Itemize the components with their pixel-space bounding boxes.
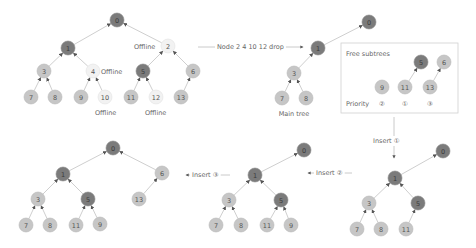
priority-label: Priority	[346, 100, 369, 108]
tree-node-13: 13	[174, 90, 188, 104]
tree-node-6: 6	[437, 55, 451, 69]
node-label: 13	[135, 196, 143, 204]
node-label: 4	[91, 68, 95, 76]
tree-node-11: 11	[399, 222, 413, 236]
tree-node-9: 9	[93, 217, 107, 231]
transition-label: Node 2 4 10 12 drop	[217, 43, 284, 51]
tree-edge	[284, 207, 289, 219]
node-label: 6	[442, 59, 446, 67]
tree-edge	[34, 78, 41, 91]
node-label: 13	[177, 94, 185, 102]
tree-edge	[232, 207, 238, 219]
node-label: 0	[441, 148, 445, 156]
node-label: 3	[227, 197, 231, 205]
node-label: 9	[380, 84, 384, 92]
node-label: 0	[111, 145, 115, 153]
transition-label: Insert ③	[192, 171, 219, 179]
tree-edge	[91, 206, 97, 218]
node-label: 1	[61, 171, 65, 179]
tree-node-3: 3	[37, 64, 51, 78]
tree-node-1: 1	[388, 171, 402, 185]
node-label: 7	[24, 222, 28, 230]
tree-node-0: 0	[297, 143, 311, 157]
tree-edge	[124, 23, 162, 42]
node-label: 7	[355, 226, 359, 234]
tree-edge	[74, 24, 110, 45]
node-label: 3	[36, 196, 40, 204]
node-label: 12	[152, 94, 160, 102]
tree-node-7: 7	[19, 218, 33, 232]
tree-node-11: 11	[398, 80, 412, 94]
tree-node-5: 5	[81, 192, 95, 206]
tree-edge	[96, 78, 102, 91]
tree-node-8: 8	[43, 218, 57, 232]
tree-edge	[148, 51, 163, 66]
tree-edge	[74, 53, 88, 66]
tree-node-13: 13	[423, 80, 437, 94]
node-label: 11	[72, 222, 80, 230]
tree-node-0: 0	[436, 144, 450, 158]
tree-edge	[409, 210, 415, 223]
node-label: 3	[367, 200, 371, 208]
tree-node-6: 6	[155, 166, 169, 180]
tree-edge	[234, 180, 250, 195]
tree-node-3: 3	[31, 192, 45, 206]
node-label: 7	[280, 95, 284, 103]
tree-edge	[144, 179, 157, 194]
transition-label: Insert ①	[373, 137, 400, 145]
tree-edge	[360, 210, 366, 223]
node-label: 11	[127, 94, 135, 102]
tree-node-7: 7	[350, 222, 364, 236]
tree-node-0: 0	[362, 15, 376, 29]
node-label: 0	[115, 17, 119, 25]
node-label: 7	[29, 94, 33, 102]
tree-edge	[79, 206, 85, 219]
tree-edge	[43, 179, 58, 194]
transition-label: Insert ②	[316, 169, 343, 177]
node-label: 5	[141, 68, 145, 76]
node-label: 8	[379, 226, 383, 234]
tree-edge	[297, 80, 303, 92]
node-label: 9	[79, 94, 83, 102]
tree-node-7: 7	[209, 218, 223, 232]
tree-edge	[270, 207, 277, 219]
node-label: 5	[416, 200, 420, 208]
node-label: 11	[263, 222, 271, 230]
node-label: 5	[419, 59, 423, 67]
tree-node-9: 9	[375, 80, 389, 94]
node-label: 3	[42, 68, 46, 76]
tree-edge	[219, 207, 225, 219]
node-label: 2	[166, 43, 170, 51]
node-label: 9	[289, 222, 293, 230]
main-tree-caption: Main tree	[279, 110, 310, 118]
tree-node-6: 6	[186, 64, 200, 78]
tree-node-0: 0	[110, 13, 124, 27]
tree-edge	[184, 78, 190, 91]
node-label: 10	[101, 94, 109, 102]
tree-node-0: 0	[106, 141, 120, 155]
tree-node-3: 3	[362, 196, 376, 210]
tree-edge	[41, 206, 47, 219]
offline-label: Offline	[145, 109, 166, 117]
tree-node-9: 9	[74, 90, 88, 104]
tree-node-3: 3	[222, 193, 236, 207]
tree-node-9: 9	[284, 218, 298, 232]
tree-node-12: 12	[149, 90, 163, 104]
tree-node-8: 8	[234, 218, 248, 232]
node-label: 6	[160, 170, 164, 178]
node-label: 13	[426, 84, 434, 92]
node-label: 8	[304, 95, 308, 103]
tree-edge	[49, 53, 63, 66]
node-label: 6	[191, 68, 195, 76]
tree-node-1: 1	[61, 41, 75, 55]
node-label: 11	[402, 226, 410, 234]
diagram-canvas: 0123456789101112130137856911130135781101…	[0, 0, 476, 248]
node-label: 0	[302, 147, 306, 155]
tree-edge	[29, 206, 35, 219]
node-label: 3	[292, 70, 296, 78]
tree-edge	[173, 51, 188, 66]
tree-edge	[285, 80, 291, 92]
tree-edge	[260, 180, 276, 195]
tree-node-5: 5	[414, 55, 428, 69]
node-label: 7	[214, 222, 218, 230]
